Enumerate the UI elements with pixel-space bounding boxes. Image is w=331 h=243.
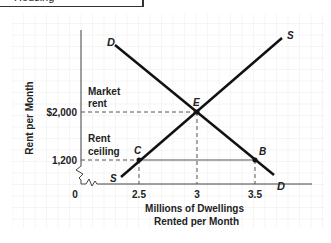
demand-label-bottom: D bbox=[277, 180, 285, 192]
supply-label-bottom: S bbox=[110, 173, 117, 184]
y-tick-1200: 1,200 bbox=[52, 155, 77, 166]
market-rent-label-2: rent bbox=[88, 98, 108, 109]
label-c: C bbox=[134, 145, 142, 156]
label-e: E bbox=[193, 97, 200, 108]
x-tick-3: 3 bbox=[194, 189, 200, 200]
label-b: B bbox=[259, 146, 266, 157]
x-axis-label-2: Rented per Month bbox=[154, 216, 239, 227]
point-e bbox=[195, 110, 200, 115]
y-axis-label: Rent per Month bbox=[24, 81, 35, 154]
x-tick-0: 0 bbox=[72, 189, 78, 200]
point-b bbox=[253, 158, 258, 163]
x-tick-2-5: 2.5 bbox=[132, 189, 146, 200]
demand-label-top: D bbox=[107, 36, 115, 48]
x-tick-3-5: 3.5 bbox=[248, 189, 262, 200]
rent-ceiling-label-2: ceiling bbox=[88, 146, 120, 157]
supply-label-top: S bbox=[287, 30, 294, 41]
market-rent-label-1: Market bbox=[88, 86, 121, 97]
supply-demand-chart: D D S S E C B Market rent Rent ceiling $… bbox=[0, 0, 331, 243]
rent-ceiling-label-1: Rent bbox=[88, 133, 111, 144]
y-tick-2000: $2,000 bbox=[46, 107, 77, 118]
point-c bbox=[137, 158, 142, 163]
x-axis-label-1: Millions of Dwellings bbox=[145, 203, 244, 214]
grid-background bbox=[12, 14, 324, 228]
